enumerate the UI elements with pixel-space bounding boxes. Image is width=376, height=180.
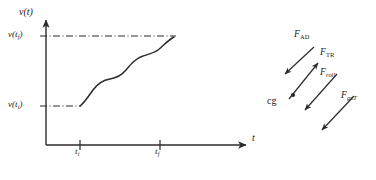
- force-label-rolling: Froll: [320, 68, 335, 78]
- figure-canvas: v(t) v(tf) v(ti) ti tf t FAD FTR Froll F…: [0, 0, 376, 180]
- force-label-tractive-base: F: [320, 47, 326, 57]
- x-tick-label-tf: tf: [155, 147, 160, 157]
- force-label-rolling-sub: roll: [326, 71, 335, 78]
- y-label-v-ti-close: ): [20, 99, 23, 109]
- x-tick-label-ti: ti: [75, 147, 80, 157]
- leader-lines: [40, 36, 176, 106]
- y-label-v-tf-close: ): [20, 29, 23, 39]
- y-label-v-tf-base: v(t: [8, 29, 18, 39]
- force-arrow-rolling: [305, 74, 337, 110]
- x-axis-title: t: [252, 133, 255, 143]
- y-axis-title: v(t): [19, 7, 33, 17]
- cg-point: [291, 93, 295, 97]
- force-label-tractive-sub: TR: [326, 51, 335, 58]
- force-label-aerodynamic-drag-sub: AD: [300, 33, 310, 40]
- x-tick-label-tf-sub: f: [158, 151, 160, 157]
- force-label-aerodynamic-drag-base: F: [294, 29, 300, 39]
- force-label-tractive: FTR: [320, 48, 334, 58]
- y-label-v-ti: v(ti): [8, 100, 23, 110]
- cg-label: cg: [267, 96, 276, 106]
- y-label-v-tf: v(tf): [8, 30, 23, 40]
- figure-vector-layer: [0, 0, 376, 180]
- y-label-v-ti-base: v(t: [8, 99, 18, 109]
- velocity-curve: [80, 37, 174, 106]
- force-label-aerodynamic-drag: FAD: [294, 30, 309, 40]
- force-label-grade-base: F: [341, 90, 347, 100]
- force-label-rolling-base: F: [320, 67, 326, 77]
- force-label-grade: FgxT: [341, 91, 357, 101]
- force-vectors: [285, 47, 354, 130]
- force-arrow-aerodynamic-drag: [285, 47, 314, 74]
- force-label-grade-sub: gxT: [347, 94, 357, 101]
- x-tick-label-ti-sub: i: [78, 151, 80, 157]
- plot-axes: [46, 20, 246, 145]
